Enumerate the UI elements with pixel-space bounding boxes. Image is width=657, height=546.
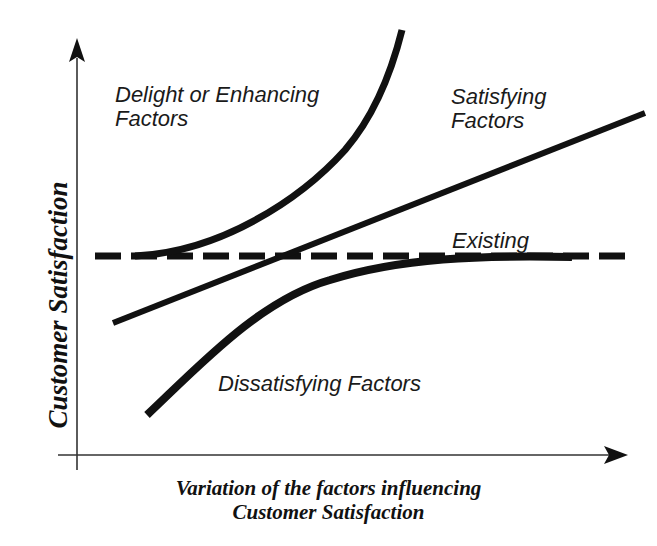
y-axis-label: Customer Satisfaction (43, 182, 74, 429)
satisfying-label: Satisfying Factors (451, 85, 546, 133)
delight-label-line2: Factors (115, 107, 319, 131)
delight-label: Delight or Enhancing Factors (115, 83, 319, 131)
existing-label: Existing (452, 229, 529, 253)
delight-label-line1: Delight or Enhancing (115, 83, 319, 107)
x-axis (58, 446, 628, 464)
x-axis-label-line2: Customer Satisfaction (0, 500, 657, 524)
dissatisfying-label: Dissatisfying Factors (218, 372, 421, 396)
satisfying-line (113, 113, 645, 323)
kano-model-diagram (0, 0, 657, 546)
x-axis-label-line1: Variation of the factors influencing (0, 476, 657, 500)
satisfying-label-line1: Satisfying (451, 85, 546, 109)
x-axis-label: Variation of the factors influencing Cus… (0, 476, 657, 524)
satisfying-label-line2: Factors (451, 109, 546, 133)
